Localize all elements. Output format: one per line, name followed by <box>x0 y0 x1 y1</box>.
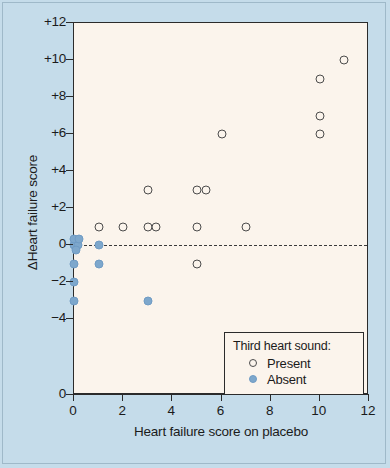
y-axis-tick-label: +6 <box>51 125 66 140</box>
y-axis-tick-label: +2 <box>51 199 66 214</box>
data-point-present <box>315 111 324 120</box>
x-axis-tick-label: 12 <box>360 403 375 418</box>
data-point-present <box>143 185 152 194</box>
y-axis-tick <box>66 170 73 171</box>
data-point-absent <box>74 235 83 244</box>
legend-title: Third heart sound: <box>233 339 355 353</box>
data-point-present <box>192 259 201 268</box>
y-axis-tick <box>66 318 73 319</box>
x-axis-tick <box>122 394 123 401</box>
data-point-present <box>315 130 324 139</box>
x-axis-tick <box>73 394 74 401</box>
x-axis-tick <box>171 394 172 401</box>
x-axis-title: Heart failure score on placebo <box>73 424 369 439</box>
x-axis-tick-label: 10 <box>311 403 326 418</box>
data-point-absent <box>94 259 103 268</box>
y-axis-tick-label: −2 <box>51 273 66 288</box>
y-axis-title: ΔHeart failure score <box>25 118 40 308</box>
legend: Third heart sound: Present Absent <box>224 332 364 395</box>
data-point-present <box>201 185 210 194</box>
y-axis-tick-label: +8 <box>51 88 66 103</box>
y-axis-tick-label: 0 <box>59 236 66 251</box>
x-axis-tick-label: 4 <box>168 403 176 418</box>
x-axis-tick <box>270 394 271 401</box>
x-axis-tick <box>368 394 369 401</box>
x-axis-tick-label: 6 <box>217 403 225 418</box>
y-axis-tick <box>66 207 73 208</box>
legend-label-present: Present <box>267 356 310 371</box>
y-axis-base-label: 0 <box>59 386 66 401</box>
data-point-present <box>119 222 128 231</box>
data-point-present <box>217 130 226 139</box>
legend-label-absent: Absent <box>267 372 306 387</box>
data-point-absent <box>70 259 79 268</box>
y-axis-tick-label: +12 <box>44 14 66 29</box>
y-axis-tick <box>66 96 73 97</box>
data-point-present <box>152 222 161 231</box>
data-point-present <box>94 222 103 231</box>
data-point-absent <box>143 296 152 305</box>
data-point-absent <box>72 245 81 254</box>
data-point-absent <box>70 278 79 287</box>
data-point-present <box>192 222 201 231</box>
y-axis-tick <box>66 59 73 60</box>
y-axis-tick <box>66 22 73 23</box>
data-point-absent <box>70 296 79 305</box>
x-axis-tick <box>221 394 222 401</box>
data-point-present <box>340 56 349 65</box>
x-axis-tick-label: 0 <box>69 403 77 418</box>
legend-entry-present: Present <box>249 355 355 371</box>
filled-circle-icon <box>249 375 257 383</box>
zero-reference-line <box>74 245 367 246</box>
y-axis-tick-label: +4 <box>51 162 66 177</box>
y-axis-tick <box>66 281 73 282</box>
y-axis-tick <box>66 133 73 134</box>
open-circle-icon <box>249 359 257 367</box>
figure: −4−20+2+4+6+8+10+120 024681012 Heart fai… <box>0 0 390 468</box>
data-point-absent <box>94 241 103 250</box>
x-axis-tick-label: 2 <box>118 403 126 418</box>
data-point-present <box>315 74 324 83</box>
data-point-present <box>242 222 251 231</box>
x-axis-tick-label: 8 <box>266 403 274 418</box>
x-axis-tick <box>319 394 320 401</box>
legend-entry-absent: Absent <box>249 371 355 387</box>
y-axis-tick <box>66 244 73 245</box>
y-axis-tick-label: −4 <box>51 310 66 325</box>
y-axis-tick-label: +10 <box>44 51 66 66</box>
